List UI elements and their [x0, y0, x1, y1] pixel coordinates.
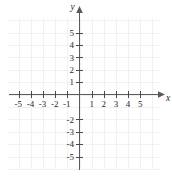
- coordinate-plane-svg: -5-4-3-2-112345 54321-2-3-4-5 x y: [0, 0, 172, 176]
- x-tick-label: 2: [102, 99, 107, 109]
- y-tick-label: 2: [70, 65, 75, 75]
- x-tick-label: -1: [63, 99, 71, 109]
- y-tick-label: 3: [70, 53, 75, 63]
- y-tick-label: -5: [67, 152, 75, 162]
- x-tick-label: 1: [89, 99, 94, 109]
- y-tick-label: 5: [70, 28, 75, 38]
- x-tick-label: 5: [138, 99, 143, 109]
- x-tick-label: -2: [51, 99, 59, 109]
- x-tick-label: -5: [15, 99, 23, 109]
- y-axis-label: y: [70, 2, 76, 12]
- y-tick-label: -4: [67, 139, 75, 149]
- x-tick-label: 3: [114, 99, 119, 109]
- coordinate-plane-figure: -5-4-3-2-112345 54321-2-3-4-5 x y: [0, 0, 172, 176]
- x-tick-label: -3: [39, 99, 47, 109]
- x-tick-label: -4: [27, 99, 35, 109]
- x-tick-label: 4: [126, 99, 131, 109]
- y-tick-label: 4: [70, 40, 75, 50]
- y-tick-label: -2: [67, 115, 75, 125]
- y-tick-label: -3: [67, 127, 75, 137]
- x-axis-label: x: [165, 93, 171, 103]
- figure-background: [0, 0, 172, 176]
- y-tick-label: 1: [70, 77, 75, 87]
